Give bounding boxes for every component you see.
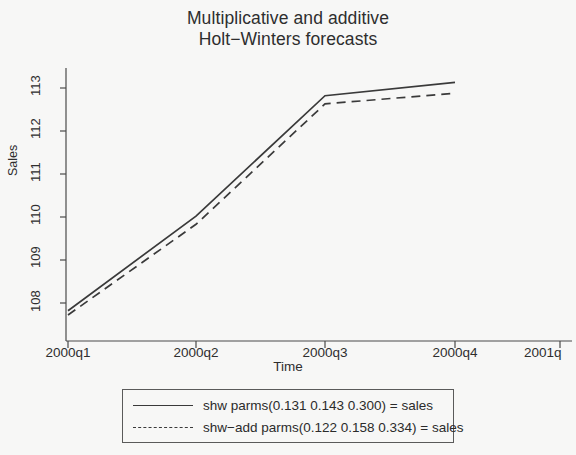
x-tick-label-2001q: 2001q: [524, 345, 576, 360]
x-tick-label-2000q3: 2000q3: [285, 345, 365, 360]
x-tick-label-2000q4: 2000q4: [415, 345, 495, 360]
y-axis-ticks: [60, 88, 66, 303]
x-tick-label-2000q2: 2000q2: [156, 345, 236, 360]
legend-label-multiplicative: shw parms(0.131 0.143 0.300) = sales: [203, 398, 433, 413]
chart-figure: Multiplicative and additive Holt−Winters…: [0, 0, 576, 455]
x-axis-label: Time: [0, 359, 576, 374]
legend-swatch-solid-icon: [133, 400, 193, 412]
legend-label-additive: shw−add parms(0.122 0.158 0.334) = sales: [203, 420, 463, 435]
legend-item-multiplicative: shw parms(0.131 0.143 0.300) = sales: [123, 394, 455, 417]
plot-area: [0, 0, 576, 455]
x-tick-label-2000q1: 2000q1: [28, 345, 108, 360]
chart-legend: shw parms(0.131 0.143 0.300) = sales shw…: [122, 389, 454, 443]
legend-item-additive: shw−add parms(0.122 0.158 0.334) = sales: [123, 416, 455, 439]
series-line-additive: [68, 93, 455, 315]
legend-swatch-dashed-icon: [133, 422, 193, 434]
series-line-multiplicative: [68, 82, 455, 310]
